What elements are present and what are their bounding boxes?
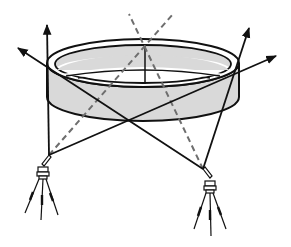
telescope-icon	[203, 167, 212, 178]
vertical-axis-left	[47, 25, 49, 155]
telescope-icon	[42, 155, 51, 166]
theodolite-right	[194, 167, 226, 236]
theodolite-left	[25, 155, 58, 220]
ring-theodolite-diagram	[0, 0, 291, 247]
ring	[47, 39, 239, 121]
